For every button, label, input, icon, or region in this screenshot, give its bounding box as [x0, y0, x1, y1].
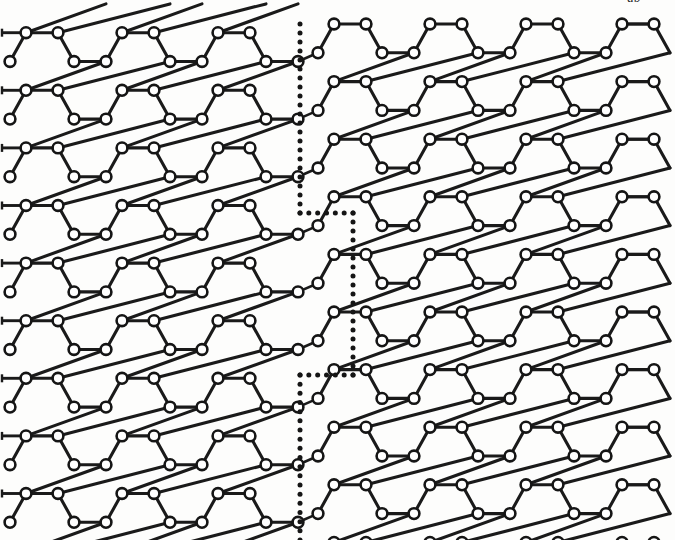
- atom-right-grain: [377, 508, 388, 519]
- atom-left-grain: [21, 85, 32, 96]
- atom-left-grain: [53, 143, 64, 154]
- grain-boundary-dot: [351, 211, 356, 216]
- atom-left-grain: [165, 56, 176, 67]
- atom-right-grain: [377, 47, 388, 58]
- atom-right-grain: [569, 220, 580, 231]
- grain-boundary-dot: [298, 373, 303, 378]
- atom-right-grain: [313, 451, 324, 462]
- atom-left-grain: [293, 229, 304, 240]
- grain-boundary-dot: [333, 373, 338, 378]
- bond-right-grain: [430, 226, 510, 255]
- atom-right-grain: [473, 451, 484, 462]
- atom-left-grain: [245, 85, 256, 96]
- atom-left-grain: [213, 315, 224, 326]
- atom-left-grain: [101, 402, 112, 413]
- grain-boundary-dot: [298, 510, 303, 515]
- bond-left-grain: [218, 292, 298, 321]
- grain-boundary-dot: [298, 418, 303, 423]
- bond-right-grain: [430, 456, 510, 485]
- grain-boundary-dot: [298, 67, 303, 72]
- grain-boundary-dot: [324, 211, 329, 216]
- atom-left-grain: [69, 517, 80, 528]
- grain-boundary-dot: [298, 121, 303, 126]
- atom-right-grain: [377, 163, 388, 174]
- atom-right-grain: [425, 19, 436, 30]
- atom-right-grain: [601, 47, 612, 58]
- bond-right-grain: [430, 110, 510, 139]
- atom-right-grain: [457, 76, 468, 87]
- bond-right-grain: [526, 283, 606, 312]
- atom-left-grain: [101, 459, 112, 470]
- grain-boundary-dot: [351, 292, 356, 297]
- atom-left-grain: [197, 229, 208, 240]
- grain-boundary-dot: [351, 283, 356, 288]
- atom-right-grain: [313, 278, 324, 289]
- grain-boundary-dot: [298, 455, 303, 460]
- atom-right-grain: [521, 76, 532, 87]
- atom-right-grain: [425, 364, 436, 375]
- bond-left-grain: [218, 119, 298, 148]
- atom-right-grain: [457, 307, 468, 318]
- atom-left-grain: [101, 517, 112, 528]
- atom-right-grain: [409, 335, 420, 346]
- bond-left-grain: [122, 4, 202, 33]
- atom-right-grain: [377, 278, 388, 289]
- bond-left-grain: [26, 522, 106, 540]
- grain-boundary-dot: [342, 211, 347, 216]
- atom-right-grain: [617, 249, 628, 260]
- bond-left-grain: [26, 4, 106, 33]
- atom-right-grain: [473, 105, 484, 116]
- atom-right-grain: [457, 19, 468, 30]
- grain-boundary-dot: [298, 446, 303, 451]
- bond-left-grain: [26, 177, 106, 206]
- atom-right-grain: [617, 422, 628, 433]
- atom-left-grain: [53, 85, 64, 96]
- bond-right-grain: [430, 341, 510, 370]
- atom-right-grain: [601, 451, 612, 462]
- grain-boundary-dot: [298, 112, 303, 117]
- bond-right-grain: [334, 110, 414, 139]
- grain-boundary-dot: [298, 519, 303, 524]
- atom-left-grain: [245, 200, 256, 211]
- atom-left-grain: [53, 27, 64, 38]
- atom-right-grain: [329, 19, 340, 30]
- grain-boundary-dot: [298, 184, 303, 189]
- grain-boundary-dot: [298, 130, 303, 135]
- grain-boundary-dot: [351, 220, 356, 225]
- atom-left-grain: [245, 315, 256, 326]
- atom-right-grain: [361, 479, 372, 490]
- atom-left-grain: [149, 200, 160, 211]
- atom-right-grain: [329, 479, 340, 490]
- atom-left-grain: [261, 459, 272, 470]
- atom-left-grain: [165, 114, 176, 125]
- grain-boundary-dot: [351, 310, 356, 315]
- bond-right-grain: [334, 514, 414, 540]
- atom-right-grain: [329, 191, 340, 202]
- atom-right-grain: [569, 335, 580, 346]
- bond-left-grain: [218, 350, 298, 379]
- atom-left-grain: [21, 373, 32, 384]
- atom-left-grain: [5, 56, 16, 67]
- atom-left-grain: [5, 517, 16, 528]
- atom-left-grain: [213, 373, 224, 384]
- atom-right-grain: [505, 105, 516, 116]
- atom-left-grain: [197, 171, 208, 182]
- atom-left-grain: [213, 258, 224, 269]
- atom-right-grain: [457, 134, 468, 145]
- atom-left-grain: [165, 517, 176, 528]
- atom-left-grain: [117, 143, 128, 154]
- atom-right-grain: [617, 191, 628, 202]
- grain-boundary-dot: [298, 473, 303, 478]
- atom-right-grain: [569, 47, 580, 58]
- atom-left-grain: [197, 114, 208, 125]
- figure-root: ab: [0, 0, 675, 540]
- grain-boundary-dot: [298, 501, 303, 506]
- bond-right-grain: [430, 168, 510, 197]
- atom-left-grain: [21, 27, 32, 38]
- atom-right-grain: [505, 393, 516, 404]
- atom-left-grain: [261, 402, 272, 413]
- atom-right-grain: [505, 220, 516, 231]
- bond-left-grain: [218, 465, 298, 494]
- atom-left-grain: [53, 315, 64, 326]
- atom-left-grain: [21, 143, 32, 154]
